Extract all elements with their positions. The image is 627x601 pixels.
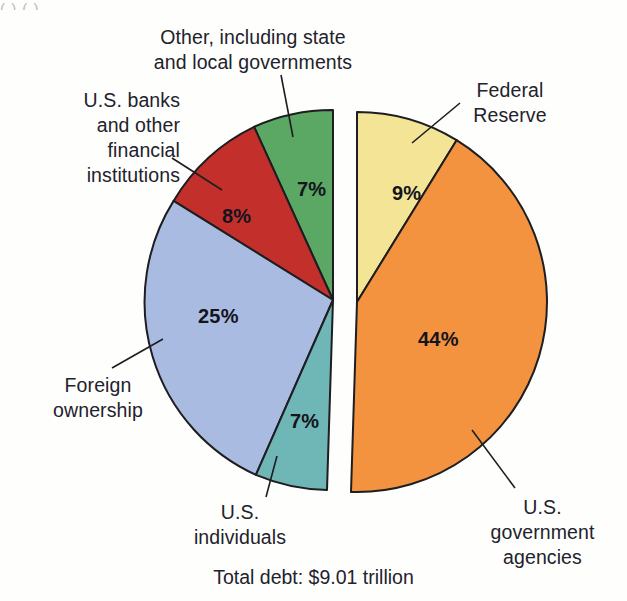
label-other-state-local: Other, including state and local governm… — [118, 25, 388, 75]
label-us-individuals: U.S. individuals — [160, 500, 320, 550]
label-us-gov-agencies: U.S. government agencies — [460, 495, 625, 570]
value-us-individuals: 7% — [290, 410, 319, 433]
label-us-banks: U.S. banks and other financial instituti… — [0, 88, 180, 188]
value-federal-reserve: 9% — [392, 182, 421, 205]
value-foreign-ownership: 25% — [198, 305, 239, 328]
value-us-gov-agencies: 44% — [418, 328, 459, 351]
value-other-state-local: 7% — [297, 178, 326, 201]
total-debt-caption: Total debt: $9.01 trillion — [0, 566, 627, 589]
pie-chart-figure: ( ) ( ) — [0, 0, 627, 601]
label-foreign-ownership: Foreign ownership — [18, 373, 178, 423]
right-half-pie — [351, 112, 547, 492]
label-federal-reserve: Federal Reserve — [430, 78, 590, 128]
leader-line-us-gov-agencies — [472, 430, 515, 488]
value-us-banks: 8% — [222, 205, 251, 228]
